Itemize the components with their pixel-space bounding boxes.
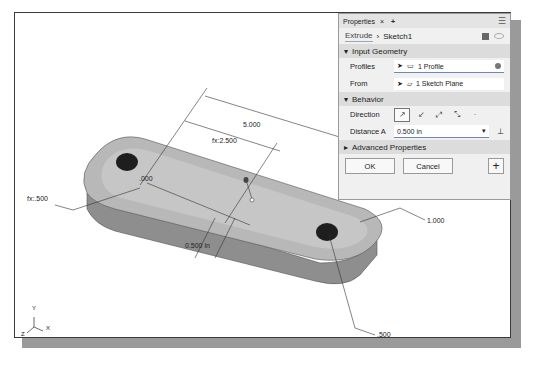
profile-icon: ▭ [407, 62, 414, 70]
breadcrumb: Extrude › Sketch1 [339, 28, 510, 44]
close-icon[interactable]: × [380, 18, 384, 25]
measure-icon[interactable]: ⊥ [497, 127, 504, 136]
collapse-triangle-icon: ▾ [344, 95, 348, 104]
direction-label: Direction [350, 110, 394, 119]
direction-flipped-icon[interactable]: ↙ [414, 109, 428, 121]
sketch-plane-icon: ▱ [407, 80, 412, 88]
section-behavior[interactable]: ▾ Behavior [339, 92, 510, 106]
dimension-left-radius[interactable]: fx:.500 [27, 195, 48, 202]
from-row: From ➤ ▱ 1 Sketch Plane [339, 75, 510, 92]
direction-row: Direction ↗ ↙ ⤢ ⤡ · [339, 106, 510, 123]
select-arrow-icon: ➤ [397, 62, 403, 70]
distance-value: 0.500 in [397, 128, 422, 135]
select-arrow-icon: ➤ [397, 80, 403, 88]
preview-eye-icon[interactable] [494, 33, 504, 39]
menu-icon[interactable]: ☰ [498, 16, 506, 26]
panel-title: Properties [343, 18, 375, 25]
expand-triangle-icon: ▸ [344, 143, 348, 152]
profiles-row: Profiles ➤ ▭ 1 Profile [339, 58, 510, 75]
dimension-origin[interactable]: .000 [139, 175, 153, 182]
direction-symmetric-icon[interactable]: ⤢ [432, 109, 446, 121]
distance-input[interactable]: 0.500 in ▾ [394, 125, 489, 138]
section-title: Input Geometry [352, 47, 407, 56]
cancel-button[interactable]: Cancel [403, 158, 453, 174]
add-tab-icon[interactable]: + [391, 18, 395, 25]
distance-label: Distance A [350, 127, 394, 136]
direction-default-icon[interactable]: ↗ [394, 108, 410, 122]
from-selector[interactable]: ➤ ▱ 1 Sketch Plane [394, 78, 504, 90]
triad-y-label: Y [32, 305, 36, 311]
profiles-value: 1 Profile [418, 63, 444, 70]
tab-extrude[interactable]: Extrude [345, 31, 373, 42]
section-advanced-properties[interactable]: ▸ Advanced Properties [339, 140, 510, 154]
breadcrumb-separator: › [377, 32, 380, 41]
dimension-right-radius[interactable]: 1.000 [427, 217, 445, 224]
right-hole [316, 223, 338, 241]
from-value: 1 Sketch Plane [416, 80, 463, 87]
section-input-geometry[interactable]: ▾ Input Geometry [339, 44, 510, 58]
triad-x-label: X [46, 325, 50, 331]
direction-asymmetric-icon[interactable]: ⤡ [450, 109, 464, 121]
ok-button[interactable]: OK [345, 158, 395, 174]
dropdown-arrow-icon[interactable]: ▾ [482, 127, 486, 135]
triad-z-label: Z [21, 331, 25, 337]
more-options-icon[interactable]: · [468, 109, 482, 121]
panel-footer: OK Cancel + [339, 154, 510, 178]
left-hole [116, 153, 138, 171]
section-title: Behavior [352, 95, 384, 104]
view-triad-icon [27, 317, 43, 333]
properties-panel: Properties × + ☰ Extrude › Sketch1 ▾ Inp… [338, 13, 511, 200]
apply-plus-button[interactable]: + [488, 158, 504, 174]
section-title: Advanced Properties [352, 143, 426, 152]
dimension-hole-diameter[interactable]: .500 [377, 331, 391, 338]
profiles-label: Profiles [350, 62, 394, 71]
profiles-selector[interactable]: ➤ ▭ 1 Profile [394, 60, 504, 73]
panel-titlebar: Properties × + ☰ [339, 14, 510, 28]
dimension-extrude-distance[interactable]: 0.500 in [185, 242, 210, 249]
breadcrumb-sketch[interactable]: Sketch1 [383, 32, 412, 41]
from-label: From [350, 79, 394, 88]
distance-row: Distance A 0.500 in ▾ ⊥ [339, 123, 510, 140]
dimension-overall-length[interactable]: 5.000 [243, 121, 261, 128]
collapse-triangle-icon: ▾ [344, 47, 348, 56]
clear-selection-icon[interactable] [495, 63, 501, 69]
dimension-half-length[interactable]: fx:2.500 [212, 137, 237, 144]
output-solid-icon[interactable] [482, 33, 489, 40]
